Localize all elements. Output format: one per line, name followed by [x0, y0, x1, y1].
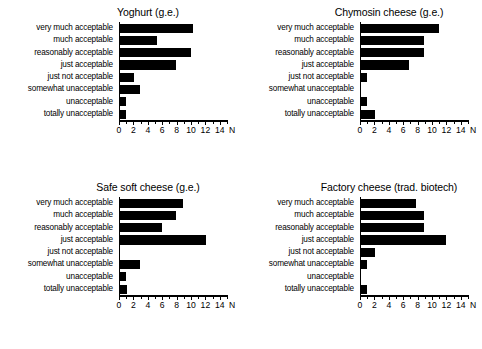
bar-row: [120, 246, 227, 258]
bar: [120, 110, 126, 119]
category-label: just not acceptable: [0, 71, 116, 83]
bar-row: [120, 283, 227, 295]
bar: [361, 110, 375, 119]
category-label: just not acceptable: [241, 71, 357, 83]
x-tick-minor: [227, 295, 228, 298]
bar: [120, 211, 176, 220]
bar-row: [120, 258, 227, 270]
bar-row: [120, 234, 227, 246]
x-tick-label: 10: [427, 125, 437, 135]
x-tick-label: 2: [372, 300, 377, 310]
x-axis-ticks: [119, 295, 227, 299]
x-tick-label: 12: [201, 300, 211, 310]
category-label-list: very much acceptablemuch acceptablereaso…: [0, 22, 116, 120]
x-axis-tick-labels: 02468101214: [119, 125, 227, 137]
x-tick-minor: [454, 295, 455, 298]
category-label: unacceptable: [0, 271, 116, 283]
category-label-list: very much acceptablemuch acceptablereaso…: [0, 197, 116, 295]
plot-area: 02468101214: [360, 22, 468, 120]
x-axis-tick-labels: 02468101214: [119, 300, 227, 312]
category-label-list: very much acceptablemuch acceptablereaso…: [241, 197, 357, 295]
panel-title: Factory cheese (trad. biotech): [299, 181, 479, 193]
bar-group: [361, 22, 468, 120]
x-axis-label: N: [229, 300, 235, 310]
panel-title: Safe soft cheese (g.e.): [58, 181, 238, 193]
category-label: somewhat unacceptable: [241, 83, 357, 95]
x-tick-minor: [367, 295, 368, 298]
x-tick-label: 6: [401, 300, 406, 310]
category-label: reasonably acceptable: [241, 47, 357, 59]
x-tick-label: 4: [145, 300, 150, 310]
x-tick-label: 4: [145, 125, 150, 135]
x-tick-label: 14: [215, 125, 225, 135]
bar-row: [361, 234, 468, 246]
x-tick-label: 8: [174, 125, 179, 135]
bar-group: [120, 22, 227, 120]
x-tick-minor: [425, 120, 426, 123]
bar-row: [361, 246, 468, 258]
category-label: very much acceptable: [241, 197, 357, 209]
bar: [361, 223, 424, 232]
x-tick-label: 4: [386, 300, 391, 310]
bar-row: [361, 34, 468, 46]
x-tick-label: 6: [160, 300, 165, 310]
bar: [361, 211, 424, 220]
x-axis-tick-labels: 02468101214: [360, 125, 468, 137]
x-tick-minor: [213, 295, 214, 298]
bar: [120, 73, 134, 82]
panel-title: Chymosin cheese (g.e.): [299, 6, 479, 18]
bar: [361, 24, 439, 33]
bar: [361, 260, 367, 269]
x-tick-minor: [410, 295, 411, 298]
x-axis-ticks: [119, 120, 227, 124]
chart-panel-safe-soft-cheese: Safe soft cheese (g.e.) very much accept…: [0, 175, 241, 349]
category-label: just acceptable: [241, 59, 357, 71]
plot-area: 02468101214: [360, 197, 468, 295]
bar-group: [361, 197, 468, 295]
plot-area: 02468101214: [119, 197, 227, 295]
category-label: totally unacceptable: [241, 283, 357, 295]
x-tick-label: 12: [442, 300, 452, 310]
bar: [120, 85, 140, 94]
bar-row: [361, 83, 468, 95]
plot-area: 02468101214: [119, 22, 227, 120]
bar: [120, 24, 193, 33]
x-axis-label: N: [470, 125, 476, 135]
category-label-list: very much acceptablemuch acceptablereaso…: [241, 22, 357, 120]
bar: [120, 272, 126, 281]
bar-row: [120, 22, 227, 34]
x-tick-minor: [468, 295, 469, 298]
x-tick-label: 10: [186, 125, 196, 135]
x-tick-label: 4: [386, 125, 391, 135]
x-tick-minor: [184, 295, 185, 298]
x-tick-label: 0: [117, 125, 122, 135]
x-tick-label: 12: [442, 125, 452, 135]
category-label: unacceptable: [241, 271, 357, 283]
x-tick-label: 12: [201, 125, 211, 135]
x-tick-minor: [213, 120, 214, 123]
bar: [361, 97, 367, 106]
x-tick-minor: [126, 295, 127, 298]
x-tick-minor: [198, 120, 199, 123]
bar-row: [120, 83, 227, 95]
category-label: reasonably acceptable: [0, 222, 116, 234]
x-tick-minor: [227, 120, 228, 123]
bar-row: [120, 71, 227, 83]
bar-row: [361, 47, 468, 59]
bar-row: [120, 34, 227, 46]
x-axis-label: N: [470, 300, 476, 310]
bar: [120, 260, 140, 269]
bar: [361, 235, 446, 244]
x-tick-minor: [439, 295, 440, 298]
x-tick-minor: [141, 295, 142, 298]
bar: [361, 248, 375, 257]
category-label: very much acceptable: [0, 197, 116, 209]
category-label: totally unacceptable: [0, 283, 116, 295]
bar-row: [120, 108, 227, 120]
category-label: much acceptable: [0, 209, 116, 221]
bar: [120, 223, 162, 232]
bar: [120, 48, 191, 57]
x-tick-minor: [382, 120, 383, 123]
x-tick-minor: [155, 295, 156, 298]
x-tick-label: 0: [358, 125, 363, 135]
